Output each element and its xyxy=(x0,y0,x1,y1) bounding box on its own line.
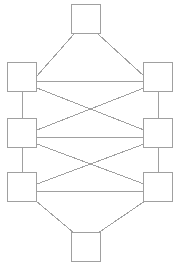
node-square[interactable] xyxy=(144,63,173,92)
node-square[interactable] xyxy=(8,173,37,202)
graph-node[interactable] xyxy=(8,119,37,148)
node-layer xyxy=(8,5,173,262)
graph-node[interactable] xyxy=(144,63,173,92)
node-square[interactable] xyxy=(144,119,173,148)
node-square[interactable] xyxy=(72,5,101,34)
graph-node[interactable] xyxy=(144,173,173,202)
graph-node[interactable] xyxy=(8,63,37,92)
graph-edge xyxy=(36,34,74,77)
graph-node[interactable] xyxy=(72,233,101,262)
node-square[interactable] xyxy=(8,119,37,148)
graph-edge xyxy=(36,201,74,233)
node-square[interactable] xyxy=(8,63,37,92)
graph-node[interactable] xyxy=(144,119,173,148)
graph-edge xyxy=(98,34,145,77)
node-square[interactable] xyxy=(144,173,173,202)
node-square[interactable] xyxy=(72,233,101,262)
node-graph xyxy=(0,0,181,269)
graph-node[interactable] xyxy=(72,5,101,34)
diagram-canvas xyxy=(0,0,181,269)
graph-node[interactable] xyxy=(8,173,37,202)
edge-layer xyxy=(22,34,158,233)
graph-edge xyxy=(98,201,145,233)
